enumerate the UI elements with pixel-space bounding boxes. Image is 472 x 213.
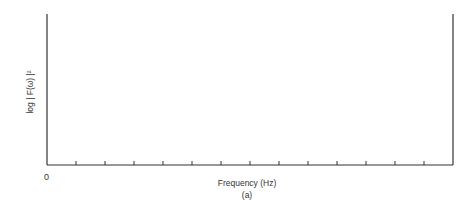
period-annotation: 1 T [0, 0, 3, 2]
x-axis-label: Frequency (Hz) [218, 178, 277, 188]
annotation-denominator: T [0, 0, 3, 2]
y-axis-label: log | F(ω) |² [25, 70, 35, 113]
x-origin-label: 0 [44, 172, 49, 182]
figure-caption: (a) [242, 190, 253, 200]
axes [47, 14, 453, 165]
spectrum-chart: 0 Frequency (Hz) (a) log | F(ω) |² 1 T [0, 0, 472, 213]
